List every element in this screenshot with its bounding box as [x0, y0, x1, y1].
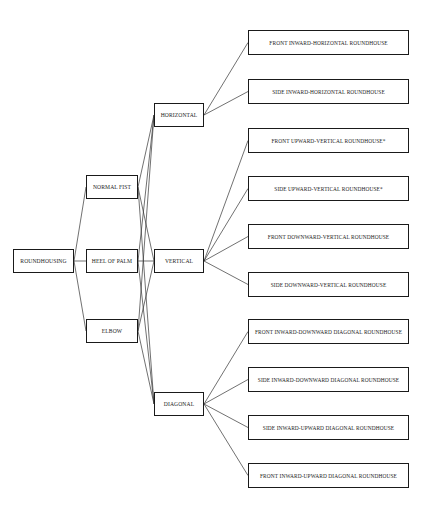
node-side-inward-horizontal: SIDE INWARD-HORIZONTAL ROUNDHOUSE	[248, 79, 409, 104]
node-vertical: VERTICAL	[154, 249, 204, 273]
node-diagonal: DIAGONAL	[154, 392, 204, 416]
node-side-upward-vertical: SIDE UPWARD-VERTICAL ROUNDHOUSE*	[248, 176, 409, 201]
node-side-inward-upward-diagonal: SIDE INWARD-UPWARD DIAGONAL ROUNDHOUSE	[248, 415, 409, 440]
connector-line	[204, 332, 248, 405]
connector-line	[204, 261, 248, 285]
connector-line	[138, 115, 154, 261]
connector-line	[204, 92, 248, 116]
node-front-inward-upward-diagonal: FRONT INWARD-UPWARD DIAGONAL ROUNDHOUSE	[248, 463, 409, 488]
connector-line	[204, 237, 248, 262]
connector-line	[74, 187, 86, 261]
connector-line	[204, 43, 248, 116]
connector-line	[138, 261, 154, 404]
node-heel-of-palm: HEEL OF PALM	[86, 249, 138, 273]
connector-line	[74, 261, 86, 331]
roundhousing-tree-diagram: ROUNDHOUSING NORMAL FIST HEEL OF PALM EL…	[0, 0, 435, 514]
connector-line	[204, 380, 248, 405]
node-roundhousing: ROUNDHOUSING	[13, 249, 74, 273]
node-elbow: ELBOW	[86, 319, 138, 343]
node-normal-fist: NORMAL FIST	[86, 175, 138, 199]
node-front-downward-vertical: FRONT DOWNWARD-VERTICAL ROUNDHOUSE	[248, 224, 409, 249]
node-horizontal: HORIZONTAL	[154, 103, 204, 127]
node-front-inward-horizontal: FRONT INWARD-HORIZONTAL ROUNDHOUSE	[248, 30, 409, 55]
node-front-inward-downward-diagonal: FRONT INWARD-DOWNWARD DIAGONAL ROUNDHOUS…	[248, 319, 409, 344]
node-side-inward-downward-diagonal: SIDE INWARD-DOWNWARD DIAGONAL ROUNDHOUSE	[248, 367, 409, 392]
connector-line	[204, 404, 248, 428]
connector-line	[204, 141, 248, 262]
node-front-upward-vertical: FRONT UPWARD-VERTICAL ROUNDHOUSE*	[248, 128, 409, 153]
connector-line	[204, 404, 248, 476]
node-side-downward-vertical: SIDE DOWNWARD-VERTICAL ROUNDHOUSE	[248, 272, 409, 297]
connector-line	[204, 189, 248, 262]
